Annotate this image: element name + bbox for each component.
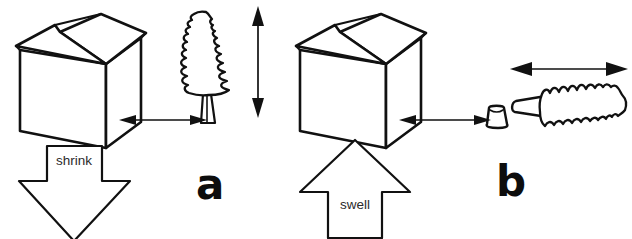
- figure-root: shrink a: [0, 0, 632, 239]
- stump-body: [487, 106, 508, 128]
- house-b-front-wall: [300, 50, 386, 148]
- panel-b-letter: b: [496, 157, 526, 206]
- shrink-arrow-label: shrink: [56, 153, 92, 168]
- shrink-swell-diagram: shrink a: [0, 0, 632, 239]
- swell-arrow-label: swell: [340, 197, 370, 212]
- house-a: [16, 14, 146, 148]
- tree-stump-b: [487, 106, 508, 128]
- house-a-front-wall: [20, 50, 106, 148]
- panel-a-letter: a: [196, 160, 224, 209]
- house-b: [296, 14, 426, 148]
